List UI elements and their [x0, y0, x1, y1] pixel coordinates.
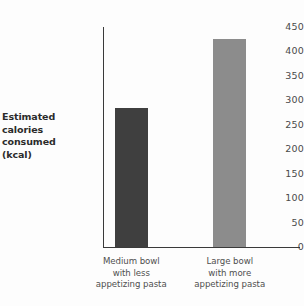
- x-axis-line: [103, 247, 300, 248]
- x-cat-1-line-1: Large bowl: [178, 256, 282, 268]
- x-cat-0-line-1: Medium bowl: [79, 256, 183, 268]
- bar-chart-figure: Estimated calories consumed (kcal) 05010…: [0, 0, 304, 306]
- x-cat-0-line-3: appetizing pasta: [79, 279, 183, 291]
- y-axis-title-line-3: consumed: [2, 136, 74, 149]
- bar-medium-bowl: [115, 108, 148, 247]
- bar-large-bowl: [213, 39, 246, 247]
- x-cat-1-line-3: appetizing pasta: [178, 279, 282, 291]
- x-cat-1-line-2: with more: [178, 268, 282, 280]
- y-axis-title-line-1: Estimated: [2, 111, 74, 124]
- plot-area: [103, 27, 300, 248]
- x-cat-0-line-2: with less: [79, 268, 183, 280]
- x-axis-category-label-medium-bowl: Medium bowl with less appetizing pasta: [79, 256, 183, 291]
- x-axis-category-label-large-bowl: Large bowl with more appetizing pasta: [178, 256, 282, 291]
- y-axis-line: [103, 27, 104, 248]
- y-axis-title: Estimated calories consumed (kcal): [2, 111, 74, 161]
- y-axis-title-line-4: (kcal): [2, 149, 74, 162]
- y-axis-title-line-2: calories: [2, 124, 74, 137]
